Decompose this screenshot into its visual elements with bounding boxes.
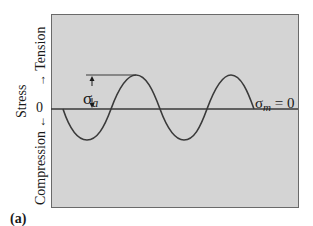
panel-label: (a) bbox=[10, 211, 26, 226]
zero-tick-label: 0 bbox=[36, 100, 43, 116]
mean-subscript: m bbox=[263, 101, 271, 113]
sigma-symbol: σ bbox=[83, 89, 92, 108]
stress-cycle-figure: Stress → Tension Compression ← 0 σa σm =… bbox=[0, 0, 313, 226]
mean-value: = 0 bbox=[271, 95, 294, 111]
compression-arrow-icon: ← bbox=[34, 116, 48, 128]
compression-label: Compression bbox=[33, 131, 48, 205]
amplitude-label: σa bbox=[83, 89, 98, 111]
amplitude-subscript: a bbox=[92, 96, 98, 110]
mean-stress-label: σm = 0 bbox=[255, 95, 295, 113]
tension-arrow-icon: → bbox=[34, 74, 48, 86]
tension-label: Tension bbox=[33, 27, 48, 71]
compression-label-group: Compression ← bbox=[33, 116, 49, 205]
stress-label: Stress bbox=[14, 85, 29, 118]
sigma-symbol: σ bbox=[255, 95, 263, 111]
tension-label-group: → Tension bbox=[33, 27, 49, 86]
y-axis-label: Stress bbox=[14, 85, 30, 118]
